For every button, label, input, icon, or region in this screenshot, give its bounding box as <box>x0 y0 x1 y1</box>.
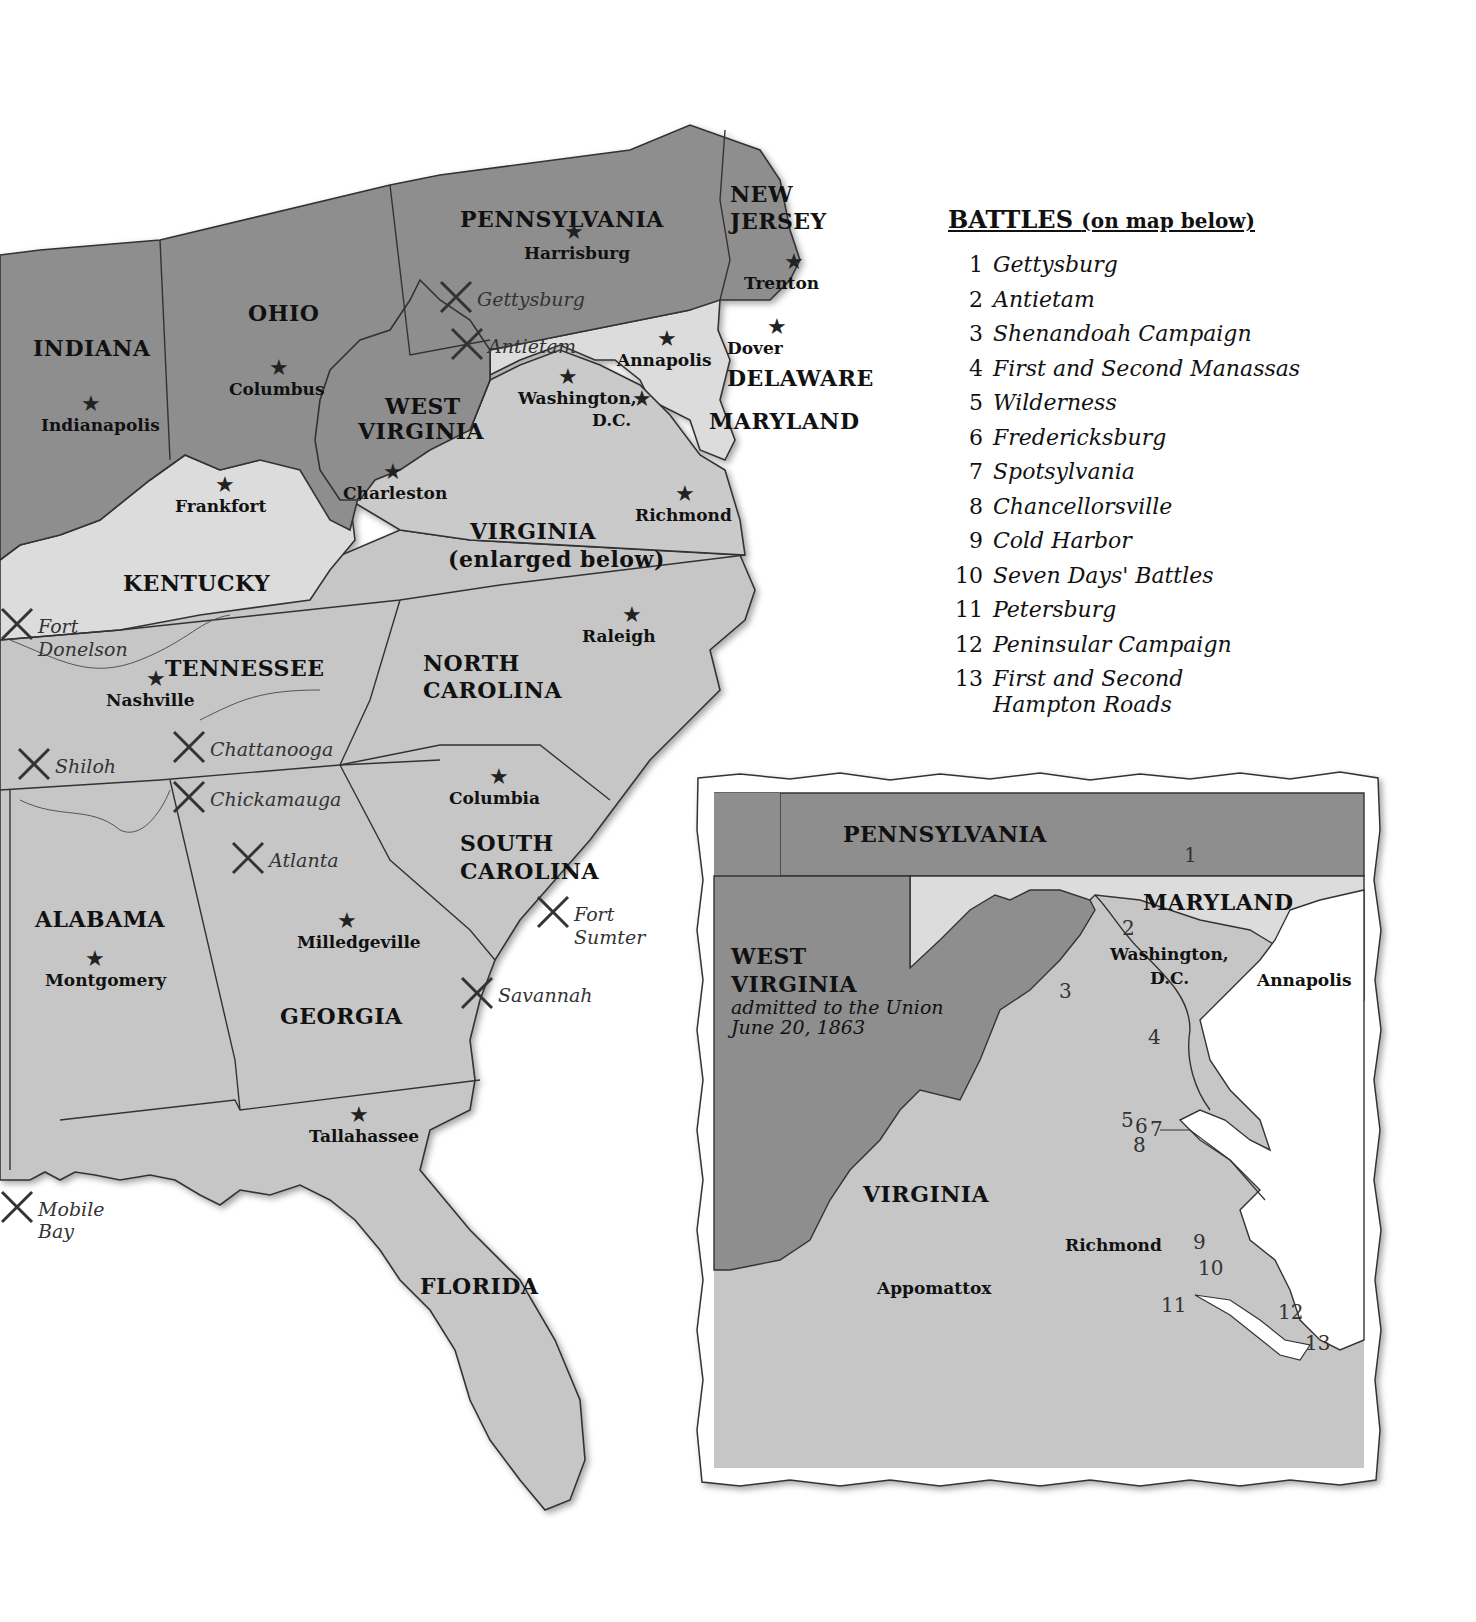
wv-admission-note: admitted to the Union June 20, 1863 <box>731 998 944 1038</box>
state-label: VIRGINIA <box>470 520 596 543</box>
state-label: SOUTH <box>460 832 554 855</box>
main-map <box>0 125 800 1510</box>
inset-battle-number: 5 <box>1121 1110 1134 1131</box>
legend-item: 12Peninsular Campaign <box>945 628 1300 663</box>
legend-item: 8Chancellorsville <box>945 490 1300 525</box>
battle-label: Chattanooga <box>210 740 333 760</box>
state-label: OHIO <box>248 302 319 325</box>
inset-city-label: Washington, <box>1110 946 1229 964</box>
battle-label: Gettysburg <box>477 290 585 310</box>
capital-star-icon: ★ <box>767 316 787 338</box>
inset-battle-number: 12 <box>1278 1302 1303 1323</box>
state-label: CAROLINA <box>423 679 562 702</box>
capital-star-icon: ★ <box>784 251 804 273</box>
capital-star-icon: ★ <box>675 483 695 505</box>
battle-label: Fort <box>38 617 78 637</box>
legend-item: 6Fredericksburg <box>945 421 1300 456</box>
battle-label: Sumter <box>574 928 645 948</box>
inset-city-label: Annapolis <box>1257 972 1352 990</box>
state-label: CAROLINA <box>460 860 599 883</box>
crossed-swords-icon <box>170 728 210 768</box>
capital-star-icon: ★ <box>564 221 584 243</box>
capital-label: Annapolis <box>617 352 712 370</box>
crossed-swords-icon <box>170 778 210 818</box>
crossed-swords-icon <box>15 745 55 785</box>
capital-label: Indianapolis <box>41 417 160 435</box>
battle-label: Antietam <box>488 337 576 357</box>
inset-battle-number: 9 <box>1193 1232 1206 1253</box>
inset-city-label: Appomattox <box>877 1280 991 1298</box>
capital-star-icon: ★ <box>489 766 509 788</box>
state-label: NEW <box>730 183 793 206</box>
capital-label: Raleigh <box>582 628 656 646</box>
capital-label: Columbia <box>449 790 540 808</box>
state-label: PENNSYLVANIA <box>460 208 664 231</box>
crossed-swords-icon <box>0 605 38 645</box>
legend-subtitle: (on map below) <box>1081 209 1255 233</box>
inset-battle-number: 7 <box>1150 1119 1163 1140</box>
legend-item: 4First and Second Manassas <box>945 352 1300 387</box>
crossed-swords-icon <box>534 893 574 933</box>
state-label: GEORGIA <box>280 1005 403 1028</box>
inset-battle-number: 2 <box>1122 918 1135 939</box>
battle-label: Savannah <box>498 986 592 1006</box>
crossed-swords-icon <box>458 974 498 1014</box>
state-label: WEST <box>385 395 461 418</box>
capital-star-icon: ★ <box>657 328 677 350</box>
battle-label: Fort <box>574 905 614 925</box>
crossed-swords-icon <box>448 325 488 365</box>
inset-battle-number: 10 <box>1198 1258 1223 1279</box>
battle-label: Shiloh <box>55 757 116 777</box>
battle-label: Donelson <box>38 640 128 660</box>
legend-item: 5Wilderness <box>945 386 1300 421</box>
battle-label: Mobile <box>38 1200 104 1220</box>
capital-label: Dover <box>727 340 783 358</box>
inset-frame <box>697 772 1381 1486</box>
capital-label: Washington, <box>518 390 637 408</box>
inset-city-label: D.C. <box>1150 970 1189 988</box>
capital-label: D.C. <box>592 412 631 430</box>
capital-label: Frankfort <box>175 498 266 516</box>
inset-battle-number: 3 <box>1059 981 1072 1002</box>
capital-star-icon: ★ <box>337 910 357 932</box>
state-label: MARYLAND <box>709 410 859 433</box>
state-label: ALABAMA <box>35 908 165 931</box>
battle-label: Atlanta <box>269 851 339 871</box>
legend-item: 1Gettysburg <box>945 248 1300 283</box>
capital-label: Trenton <box>744 275 819 293</box>
capital-label: Charleston <box>343 485 447 503</box>
capital-star-icon: ★ <box>215 474 235 496</box>
capital-label: Harrisburg <box>524 245 630 263</box>
state-label: INDIANA <box>33 337 151 360</box>
legend-list: 1Gettysburg 2Antietam 3Shenandoah Campai… <box>945 248 1300 718</box>
legend-title: BATTLES (on map below) <box>948 205 1300 234</box>
capital-label: Tallahassee <box>309 1128 419 1146</box>
capital-label: Milledgeville <box>297 934 421 952</box>
state-label: JERSEY <box>730 210 827 233</box>
capital-label: Columbus <box>229 381 325 399</box>
inset-battle-number: 11 <box>1161 1295 1186 1316</box>
capital-star-icon: ★ <box>146 668 166 690</box>
legend-item: 11Petersburg <box>945 593 1300 628</box>
inset-battle-number: 4 <box>1148 1027 1161 1048</box>
crossed-swords-icon <box>437 278 477 318</box>
capital-star-icon: ★ <box>85 948 105 970</box>
inset-battle-number: 13 <box>1305 1333 1330 1354</box>
capital-star-icon: ★ <box>383 461 403 483</box>
capital-label: Nashville <box>106 692 195 710</box>
capital-star-icon: ★ <box>622 604 642 626</box>
capital-star-icon: ★ <box>558 366 578 388</box>
state-label: VIRGINIA <box>358 420 484 443</box>
capital-star-icon: ★ <box>269 357 289 379</box>
legend-item: 10Seven Days' Battles <box>945 559 1300 594</box>
inset-state-label: MARYLAND <box>1143 891 1293 914</box>
state-label: FLORIDA <box>420 1275 538 1298</box>
crossed-swords-icon <box>0 1188 38 1228</box>
state-label: DELAWARE <box>727 367 874 390</box>
inset-state-label: VIRGINIA <box>731 973 857 996</box>
legend-item: 7Spotsylvania <box>945 455 1300 490</box>
inset-state-label: VIRGINIA <box>863 1183 989 1206</box>
capital-star-icon: ★ <box>349 1104 369 1126</box>
state-label: TENNESSEE <box>165 657 324 680</box>
legend-item: 9Cold Harbor <box>945 524 1300 559</box>
